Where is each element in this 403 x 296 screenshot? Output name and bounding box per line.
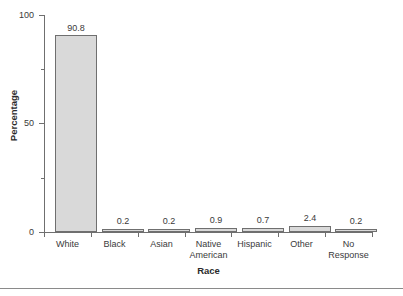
bar-no-response bbox=[335, 229, 377, 232]
x-axis-title: Race bbox=[44, 265, 373, 276]
y-axis-title: Percentage bbox=[8, 76, 19, 156]
x-tick-6 bbox=[325, 232, 326, 237]
bar-value-native-american: 0.9 bbox=[195, 216, 237, 225]
x-tick-7 bbox=[372, 232, 373, 237]
x-category-label-black-line1: Black bbox=[91, 239, 138, 250]
x-category-label-black: Black bbox=[91, 239, 138, 250]
bar-value-asian: 0.2 bbox=[148, 217, 190, 226]
x-category-label-white: White bbox=[44, 239, 91, 250]
x-tick-2 bbox=[138, 232, 139, 237]
x-tick-4 bbox=[231, 232, 232, 237]
y-tick-75-minor bbox=[41, 69, 44, 70]
x-tick-0 bbox=[44, 232, 45, 237]
x-tick-5 bbox=[278, 232, 279, 237]
x-tick-3 bbox=[185, 232, 186, 237]
x-tick-1 bbox=[91, 232, 92, 237]
bar-hispanic bbox=[242, 228, 284, 232]
y-tick-25-minor bbox=[41, 178, 44, 179]
x-category-label-no-response-line2: Response bbox=[325, 250, 372, 261]
bar-white bbox=[55, 35, 97, 232]
bar-value-black: 0.2 bbox=[102, 217, 144, 226]
x-category-label-hispanic: Hispanic bbox=[231, 239, 278, 250]
bar-asian bbox=[148, 229, 190, 232]
y-tick-100 bbox=[39, 15, 44, 16]
x-category-label-native-american-line1: Native bbox=[185, 239, 232, 250]
x-category-label-hispanic-line1: Hispanic bbox=[231, 239, 278, 250]
y-tick-50 bbox=[39, 123, 44, 124]
x-category-label-other-line1: Other bbox=[278, 239, 325, 250]
x-category-label-no-response-line1: No bbox=[325, 239, 372, 250]
bar-value-no-response: 0.2 bbox=[335, 217, 377, 226]
bottom-divider bbox=[0, 288, 403, 289]
x-category-label-other: Other bbox=[278, 239, 325, 250]
bar-value-white: 90.8 bbox=[55, 24, 97, 33]
bar-chart-figure: 0 50 100 Percentage 90.8 0.2 0.2 0.9 0.7… bbox=[0, 0, 403, 296]
bar-value-hispanic: 0.7 bbox=[242, 216, 284, 225]
y-tick-label-0: 0 bbox=[10, 228, 34, 237]
bar-black bbox=[102, 229, 144, 232]
bar-value-other: 2.4 bbox=[289, 214, 331, 223]
bar-other bbox=[289, 226, 331, 232]
x-category-label-no-response: No Response bbox=[325, 239, 372, 261]
x-category-label-asian-line1: Asian bbox=[138, 239, 185, 250]
y-axis-line bbox=[44, 15, 45, 233]
x-category-label-asian: Asian bbox=[138, 239, 185, 250]
x-category-label-white-line1: White bbox=[44, 239, 91, 250]
y-tick-label-100: 100 bbox=[10, 11, 34, 20]
x-category-label-native-american-line2: American bbox=[185, 250, 232, 261]
bar-native-american bbox=[195, 228, 237, 232]
x-category-label-native-american: Native American bbox=[185, 239, 232, 261]
x-axis-line bbox=[44, 232, 373, 233]
